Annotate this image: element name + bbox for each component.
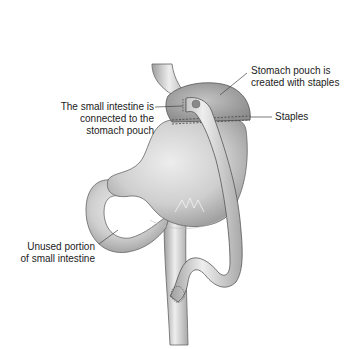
label-unused: Unused portion of small intestine [21, 241, 95, 265]
label-staples: Staples [275, 111, 308, 123]
label-unused-line-2: of small intestine [21, 253, 95, 265]
label-pouch: Stomach pouch is created with staples [251, 65, 339, 89]
label-unused-line-1: Unused portion [21, 241, 95, 253]
label-connection: The small intestine is connected to the … [61, 101, 154, 137]
label-staples-line-1: Staples [275, 111, 308, 123]
anastomosis-site [192, 100, 200, 108]
label-connection-line-1: The small intestine is [61, 101, 154, 113]
label-pouch-line-2: created with staples [251, 77, 339, 89]
label-connection-line-2: connected to the [61, 113, 154, 125]
gastric-bypass-illustration [0, 0, 359, 349]
label-connection-line-3: stomach pouch [61, 125, 154, 137]
label-pouch-line-1: Stomach pouch is [251, 65, 339, 77]
